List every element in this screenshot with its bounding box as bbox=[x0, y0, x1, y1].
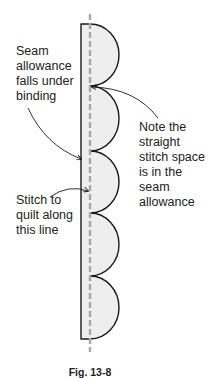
figure-caption: Fig. 13-8 bbox=[0, 366, 180, 378]
seam-allowance-label: Seam allowance falls under binding bbox=[16, 44, 74, 104]
arrow-seam-allowance bbox=[28, 108, 81, 159]
scalloped-strip bbox=[81, 24, 119, 339]
stitch-line-label: Stitch to quilt along this line bbox=[16, 193, 73, 238]
note-label: Note the straight stitch space is in the… bbox=[139, 120, 205, 210]
